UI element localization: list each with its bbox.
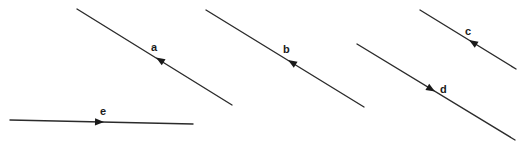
vector-d: d xyxy=(357,44,515,140)
vector-b: b xyxy=(206,10,364,107)
vector-a-label: a xyxy=(151,41,158,53)
vector-c-label: c xyxy=(465,25,471,37)
vector-b-label: b xyxy=(283,43,290,55)
vector-c-line xyxy=(420,10,516,69)
arrowhead-icon xyxy=(154,54,165,65)
vector-a-line xyxy=(77,9,232,105)
diagram-svg: a b c d e xyxy=(0,0,528,146)
arrowhead-icon xyxy=(467,37,478,48)
vector-d-label: d xyxy=(440,83,447,95)
arrowhead-icon xyxy=(286,57,297,68)
vector-d-line xyxy=(357,44,515,140)
arrowhead-icon xyxy=(425,84,436,95)
arrowhead-icon xyxy=(95,118,104,125)
vector-c: c xyxy=(420,10,516,69)
vector-diagram: a b c d e xyxy=(0,0,528,146)
vector-e: e xyxy=(10,105,193,126)
vector-b-line xyxy=(206,10,364,107)
vector-e-label: e xyxy=(100,105,106,117)
vector-a: a xyxy=(77,9,232,105)
